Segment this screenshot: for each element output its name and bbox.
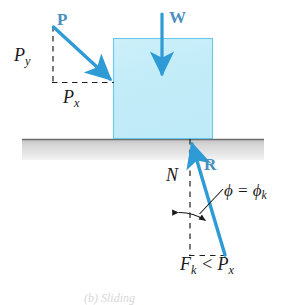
- label-phi-base: ϕ = ϕ: [224, 181, 262, 200]
- label-force-x-component: Px: [63, 88, 79, 106]
- friction-angle-arc: [179, 212, 206, 220]
- label-px-subscript: x: [74, 96, 79, 110]
- ground-surface: [22, 139, 264, 160]
- label-weight-w: W: [169, 9, 186, 26]
- label-py-base: P: [14, 45, 25, 65]
- label-fk-operator: < P: [196, 254, 228, 274]
- label-friction-inequality: Fk < Px: [180, 255, 234, 273]
- label-phi-subscript: k: [262, 189, 267, 202]
- ground-fill: [22, 139, 264, 160]
- label-normal-force: N: [166, 166, 178, 184]
- label-fk-px-subscript: x: [229, 263, 234, 277]
- arrow-p-shaft: [54, 27, 111, 79]
- force-vector-p: [54, 27, 111, 79]
- label-fk-base: F: [180, 254, 191, 274]
- label-resultant-r: R: [204, 156, 216, 173]
- angle-arc-double-arrow: [179, 212, 206, 220]
- label-force-y-component: Py: [14, 46, 30, 64]
- figure-caption-cropped: (b) Sliding: [84, 292, 135, 304]
- label-applied-force-p: P: [57, 11, 67, 28]
- label-px-base: P: [63, 87, 74, 107]
- label-py-subscript: y: [25, 54, 30, 68]
- label-fk-subscript: k: [191, 263, 196, 277]
- label-friction-angle: ϕ = ϕk: [224, 182, 267, 199]
